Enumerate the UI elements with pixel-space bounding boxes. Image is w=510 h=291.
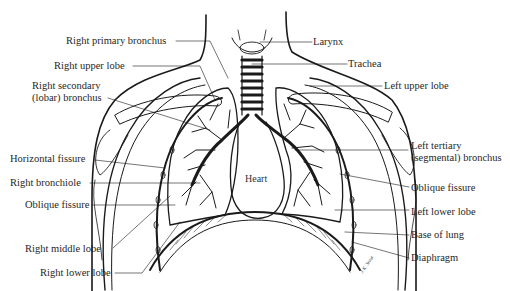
label-right-secondary-bronchus-line2: (lobar) bronchus	[32, 92, 102, 104]
label-heart: Heart	[245, 173, 267, 184]
label-right-primary-bronchus: Right primary bronchus	[66, 35, 166, 47]
label-right-upper-lobe: Right upper lobe	[54, 60, 125, 72]
label-left-tertiary-bronchus-line1: Left tertiary	[411, 140, 461, 152]
label-trachea: Trachea	[348, 58, 381, 70]
label-oblique-fissure-left: Oblique fissure	[411, 182, 475, 194]
label-right-secondary-bronchus-line1: Right secondary	[32, 80, 101, 92]
label-right-bronchiole: Right bronchiole	[10, 177, 81, 189]
lung-anatomy-diagram: Right primary bronchus Right upper lobe …	[0, 0, 510, 291]
label-right-lower-lobe: Right lower lobe	[40, 267, 111, 279]
label-left-tertiary-bronchus-line2: (segmental) bronchus	[411, 152, 502, 164]
label-horizontal-fissure: Horizontal fissure	[10, 153, 86, 165]
label-oblique-fissure-right: Oblique fissure	[25, 199, 89, 211]
label-base-of-lung: Base of lung	[411, 229, 464, 241]
label-right-middle-lobe: Right middle lobe	[25, 243, 101, 255]
label-larynx: Larynx	[313, 36, 343, 48]
label-diaphragm: Diaphragm	[411, 252, 458, 264]
label-left-upper-lobe: Left upper lobe	[384, 80, 449, 92]
label-left-lower-lobe: Left lower lobe	[411, 206, 476, 218]
